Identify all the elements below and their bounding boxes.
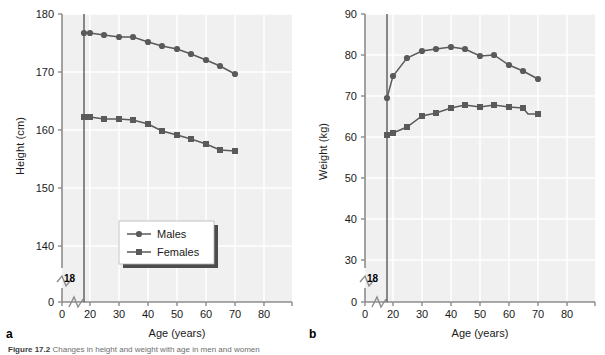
- panel-a-ytick-150: 150: [28, 182, 54, 194]
- panel-a-x-axis-label: Age (years): [122, 327, 232, 339]
- panel-a-letter: a: [6, 327, 13, 341]
- panel-a-y-axis-label: Height (cm): [14, 117, 26, 175]
- panel-b-x-axis-label: Age (years): [425, 327, 535, 339]
- legend-label-males-a: Males: [157, 228, 186, 240]
- panel-b-xtick-50: 50: [470, 308, 490, 320]
- panel-b: Weight (kg) 90 80 70 60 50 40 30 0 18 0 …: [303, 0, 605, 355]
- panel-b-axis-break-label: 18: [367, 273, 378, 284]
- figure-caption: Figure 17.2 Changes in height and weight…: [8, 345, 598, 355]
- panel-a-ytick-170: 170: [28, 66, 54, 78]
- panel-a-ytick-160: 160: [28, 124, 54, 136]
- panel-a-xtick-50: 50: [167, 308, 187, 320]
- panel-b-ytick-60: 60: [331, 131, 357, 143]
- panel-a-xtick-60: 60: [196, 308, 216, 320]
- panel-b-xtick-60: 60: [499, 308, 519, 320]
- panel-b-ytick-40: 40: [331, 213, 357, 225]
- legend-label-females-a: Females: [157, 246, 199, 258]
- panel-b-ytick-30: 30: [331, 254, 357, 266]
- panel-b-xtick-40: 40: [441, 308, 461, 320]
- panel-b-xtick-0: 0: [355, 308, 375, 320]
- panel-b-y-axis-label: Weight (kg): [317, 123, 329, 180]
- panel-b-ytick-90: 90: [331, 8, 357, 20]
- panel-b-xtick-80: 80: [557, 308, 577, 320]
- panel-a-xtick-40: 40: [138, 308, 158, 320]
- panel-a-xtick-0: 0: [52, 308, 72, 320]
- panel-b-letter: b: [309, 327, 316, 341]
- panel-b-xtick-30: 30: [412, 308, 432, 320]
- panel-a-xtick-30: 30: [109, 308, 129, 320]
- figure-caption-prefix: Figure 17.2: [8, 345, 50, 354]
- panel-a: Height (cm) 180 170 160 150 140 0 18 0 2…: [0, 0, 302, 355]
- figure-caption-text: Changes in height and weight with age in…: [52, 345, 259, 354]
- panel-a-xtick-70: 70: [225, 308, 245, 320]
- panel-a-ytick-180: 180: [28, 8, 54, 20]
- panel-a-ytick-140: 140: [28, 240, 54, 252]
- panel-b-ytick-80: 80: [331, 49, 357, 61]
- panel-a-axis-break-label: 18: [64, 273, 75, 284]
- panel-a-xtick-80: 80: [254, 308, 274, 320]
- panel-b-xtick-70: 70: [528, 308, 548, 320]
- panel-a-xtick-20: 20: [80, 308, 100, 320]
- figure-container: Height (cm) 180 170 160 150 140 0 18 0 2…: [0, 0, 605, 355]
- panel-b-ytick-70: 70: [331, 90, 357, 102]
- panel-b-ytick-50: 50: [331, 172, 357, 184]
- panel-b-xtick-20: 20: [383, 308, 403, 320]
- panel-b-ytick-0: 0: [331, 296, 357, 308]
- panel-a-ytick-0: 0: [28, 296, 54, 308]
